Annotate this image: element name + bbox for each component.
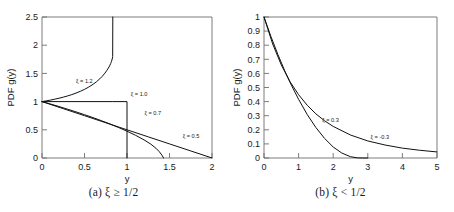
curve-label-xi-0-3: ξ = 0.3 — [322, 117, 339, 123]
panel-b: 0 1 2 3 4 5 0 0.1 0.2 0.3 0.4 0.5 0.6 0.… — [227, 0, 454, 212]
plot-b-ytick-2: 0.2 — [247, 125, 260, 135]
plot-a-xtick-4: 2 — [209, 162, 214, 172]
plot-b-ytick-5: 0.5 — [247, 83, 260, 93]
plot-b: 0 1 2 3 4 5 0 0.1 0.2 0.3 0.4 0.5 0.6 0.… — [227, 0, 454, 186]
curve-xi-neg-0-3 — [264, 17, 437, 152]
plot-b-xticks — [264, 153, 437, 158]
plot-b-xtick-3: 3 — [365, 162, 370, 172]
plot-a-ytick-0: 0 — [33, 153, 38, 163]
caption-a: (a) ξ ≥ 1/2 — [0, 186, 227, 198]
curve-xi-1-0 — [42, 102, 127, 158]
plot-b-xtick-1: 1 — [296, 162, 301, 172]
figure-root: 0 0.5 1 1.5 2 0 0.5 1 1.5 2 2.5 y PDF g(… — [0, 0, 454, 212]
plot-a-xtick-2: 1 — [124, 162, 129, 172]
caption-b: (b) ξ < 1/2 — [227, 186, 454, 198]
plot-b-xtick-2: 2 — [331, 162, 336, 172]
plot-b-ytick-10: 1 — [255, 12, 260, 22]
plot-b-curves — [264, 17, 437, 158]
plot-b-xtick-0: 0 — [261, 162, 266, 172]
plot-b-ytick-6: 0.6 — [247, 69, 260, 79]
plot-a-ytick-3: 1.5 — [25, 69, 38, 79]
plot-b-ytick-4: 0.4 — [247, 97, 260, 107]
plot-a-xtick-1: 0.5 — [78, 162, 91, 172]
curve-label-xi-1-0: ξ = 1.0 — [131, 91, 148, 97]
plot-a-annotations: ξ = 1.2 ξ = 1.0 ξ = 0.7 ξ = 0.5 — [76, 78, 199, 139]
plot-a-ytick-2: 1 — [33, 97, 38, 107]
curve-xi-1-2 — [42, 17, 113, 102]
plot-b-yticks — [264, 17, 269, 158]
plot-a-xtick-3: 1.5 — [163, 162, 176, 172]
plot-a-xtick-0: 0 — [39, 162, 44, 172]
curve-label-xi-1-2: ξ = 1.2 — [76, 78, 93, 84]
plot-b-xtick-4: 4 — [400, 162, 405, 172]
plot-b-ytick-7: 0.7 — [247, 55, 260, 65]
plot-b-xtick-5: 5 — [434, 162, 439, 172]
curve-xi-0-3 — [264, 17, 368, 158]
plot-a-ytick-1: 0.5 — [25, 125, 38, 135]
plot-b-axis-box — [264, 17, 437, 158]
plot-b-ylabel: PDF g(y) — [231, 69, 242, 107]
panel-a: 0 0.5 1 1.5 2 0 0.5 1 1.5 2 2.5 y PDF g(… — [0, 0, 227, 212]
plot-a-ytick-4: 2 — [33, 40, 38, 50]
curve-label-xi-neg-0-3: ξ = -0.3 — [371, 134, 390, 140]
plot-b-ytick-3: 0.3 — [247, 111, 260, 121]
plot-a-ytick-5: 2.5 — [25, 12, 38, 22]
plot-b-ytick-1: 0.1 — [247, 139, 260, 149]
plot-a-xlabel: y — [125, 173, 130, 184]
plot-b-ytick-0: 0 — [255, 153, 260, 163]
plot-b-ytick-8: 0.8 — [247, 40, 260, 50]
plot-b-ytick-9: 0.9 — [247, 26, 260, 36]
plot-a-yticks — [42, 17, 47, 158]
plot-a-ylabel: PDF g(y) — [5, 69, 16, 107]
curve-label-xi-0-5: ξ = 0.5 — [183, 133, 200, 139]
plot-b-xlabel: y — [348, 173, 353, 184]
plot-a: 0 0.5 1 1.5 2 0 0.5 1 1.5 2 2.5 y PDF g(… — [0, 0, 227, 186]
curve-label-xi-0-7: ξ = 0.7 — [144, 110, 161, 116]
